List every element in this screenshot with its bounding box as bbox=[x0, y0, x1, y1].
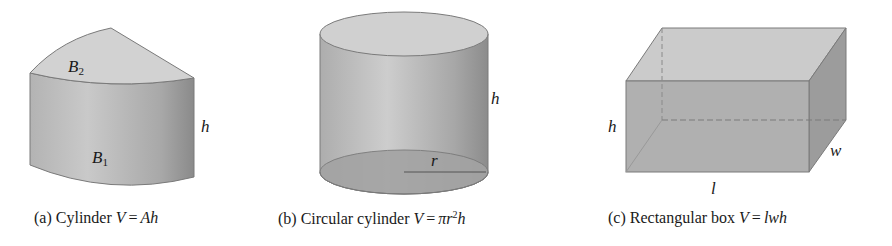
label-width: w bbox=[830, 142, 841, 159]
caption-b-eq: = bbox=[423, 210, 438, 227]
caption-c-formula: lwh bbox=[764, 209, 787, 226]
caption-c-eq: = bbox=[749, 209, 764, 226]
caption-b-var: V bbox=[414, 210, 424, 227]
caption-a-eq: = bbox=[126, 209, 141, 226]
label-height-a: h bbox=[201, 118, 210, 135]
caption-a-formula: Ah bbox=[141, 209, 159, 226]
label-radius: r bbox=[431, 152, 438, 169]
caption-a-var: V bbox=[116, 209, 126, 226]
caption-a-text: (a) Cylinder bbox=[34, 209, 112, 226]
caption-b-formula-h: h bbox=[458, 210, 466, 227]
label-length: l bbox=[711, 180, 716, 197]
label-b2: B2 bbox=[68, 58, 84, 77]
caption-c-var: V bbox=[739, 209, 749, 226]
caption-b: (b) Circular cylinder V=πr2h bbox=[278, 209, 466, 228]
label-height-b: h bbox=[491, 90, 500, 107]
caption-c: (c) Rectangular box V=lwh bbox=[608, 209, 787, 227]
general-cylinder-shape bbox=[30, 28, 194, 185]
caption-b-text: (b) Circular cylinder bbox=[278, 210, 410, 227]
label-height-c: h bbox=[608, 118, 617, 135]
rectangular-box-shape bbox=[626, 28, 846, 172]
caption-c-text: (c) Rectangular box bbox=[608, 209, 735, 226]
caption-b-formula: πr bbox=[438, 210, 452, 227]
label-b1: B1 bbox=[92, 149, 108, 168]
caption-a: (a) Cylinder V=Ah bbox=[34, 209, 158, 227]
circular-cylinder-shape bbox=[320, 12, 488, 194]
